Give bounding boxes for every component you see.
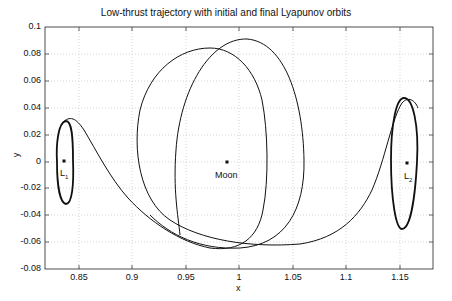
l2-point — [406, 162, 409, 165]
y-tick-label: 0 — [3, 156, 41, 166]
plot-area — [0, 0, 452, 301]
x-tick-label: 0.85 — [59, 272, 99, 282]
figure: Low-thrust trajectory with initial and f… — [0, 0, 452, 301]
x-tick-label: 0.9 — [112, 272, 152, 282]
y-tick-label: 0.02 — [3, 129, 41, 139]
moon-point — [226, 161, 229, 164]
l1-label: L1 — [60, 168, 68, 180]
x-axis-label: x — [236, 283, 241, 293]
x-tick-label: 1.1 — [326, 272, 366, 282]
x-tick-label: 0.95 — [166, 272, 206, 282]
l2-label: L2 — [404, 171, 412, 183]
y-tick-label: -0.06 — [3, 236, 41, 246]
x-tick-label: 1.05 — [273, 272, 313, 282]
y-tick-label: -0.08 — [3, 263, 41, 273]
x-tick-label: 1.15 — [380, 272, 420, 282]
y-axis-label: y — [11, 153, 21, 158]
y-tick-label: 0.1 — [3, 21, 41, 31]
l2-label-sub: 2 — [409, 177, 412, 183]
moon-label: Moon — [215, 170, 238, 180]
l1-label-sub: 1 — [65, 174, 68, 180]
y-tick-label: 0.08 — [3, 48, 41, 58]
y-tick-label: -0.02 — [3, 182, 41, 192]
y-tick-label: 0.04 — [3, 102, 41, 112]
l1-point — [63, 160, 66, 163]
x-tick-label: 1 — [219, 272, 259, 282]
y-tick-label: 0.06 — [3, 75, 41, 85]
y-tick-label: -0.04 — [3, 209, 41, 219]
